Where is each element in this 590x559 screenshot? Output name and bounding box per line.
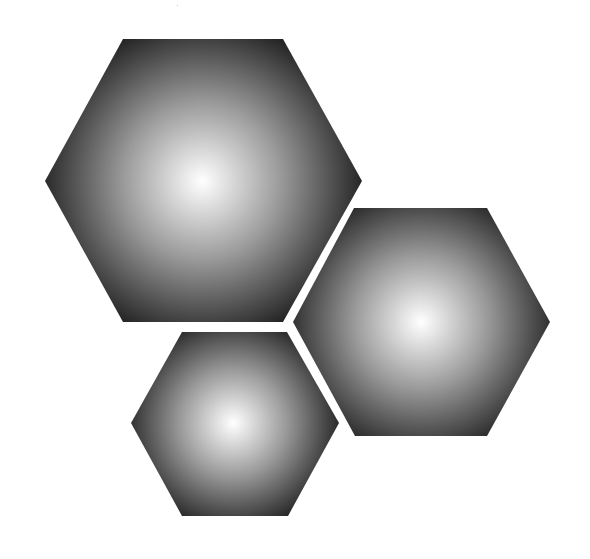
right-hexagon (293, 208, 550, 436)
stray-speck (177, 5, 178, 6)
hexagon-illustration (0, 0, 590, 559)
large-hexagon (45, 39, 362, 322)
small-hexagon (131, 332, 339, 516)
